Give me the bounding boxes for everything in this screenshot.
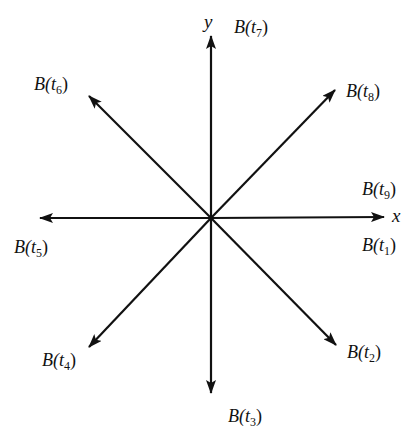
vector-label-t4: B(t4) <box>42 351 76 372</box>
vector-arrow-t1 <box>211 217 384 218</box>
vector-arrows <box>40 36 384 393</box>
vector-arrow-t6 <box>89 96 211 218</box>
vector-label-t7: B(t7) <box>234 18 268 39</box>
vector-label-t1: B(t1) <box>362 236 396 257</box>
x-axis-label: x <box>392 206 400 225</box>
vector-label-t2: B(t2) <box>347 343 381 364</box>
vector-label-t3: B(t3) <box>228 407 262 428</box>
vector-arrow-t8 <box>211 90 335 218</box>
vector-label-t8: B(t8) <box>346 82 380 103</box>
vector-arrow-t2 <box>211 218 336 345</box>
vector-label-t6: B(t6) <box>34 75 68 96</box>
y-axis-label: y <box>204 12 212 31</box>
vector-arrow-t4 <box>89 218 211 347</box>
vector-label-t9: B(t9) <box>362 180 396 201</box>
vector-label-t5: B(t5) <box>14 238 48 259</box>
